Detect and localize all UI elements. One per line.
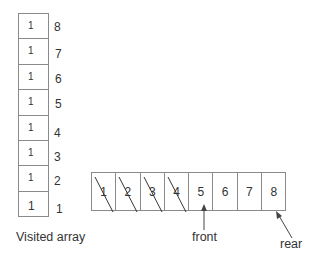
pointer-arrows	[0, 0, 315, 259]
rear-arrow-icon	[276, 211, 292, 238]
front-arrow-icon	[201, 204, 207, 230]
rear-label: rear	[280, 237, 302, 251]
front-label: front	[192, 230, 217, 244]
